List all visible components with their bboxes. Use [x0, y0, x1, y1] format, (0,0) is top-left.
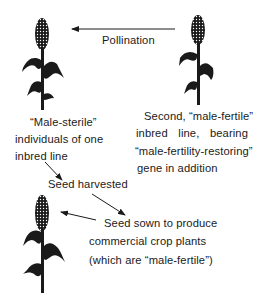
seed-harvested-label: Seed harvested: [48, 176, 128, 194]
seed-sown-line-1: Seed sown to produce: [104, 215, 217, 233]
male-sterile-line-1: “Male-sterile”: [30, 114, 97, 132]
male-fertile-line-1: Second, “male-fertile”: [144, 108, 253, 126]
seed-sown-line-3: (which are “male-fertile”): [89, 252, 213, 270]
pollination-label: Pollination: [102, 32, 155, 50]
seed-sown-line-2: commercial crop plants: [89, 233, 203, 251]
male-fertile-plant-icon: [179, 15, 213, 105]
male-fertile-line-2: inbred line, bearing: [136, 125, 248, 143]
male-sterile-plant-icon: [22, 18, 64, 110]
male-fertile-line-4: gene in addition: [137, 160, 218, 178]
commercial-crop-plant-icon: [23, 195, 65, 293]
male-sterile-line-3: inbred line: [15, 148, 68, 166]
male-fertile-line-3: “male-fertility-restoring”: [135, 143, 253, 161]
produce-arrow: [61, 212, 96, 220]
sow-arrow: [92, 194, 125, 215]
male-sterile-line-2: individuals of one: [15, 131, 103, 149]
